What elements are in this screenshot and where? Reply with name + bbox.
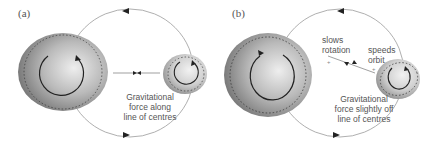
caption-line: line of centres [107, 112, 193, 122]
panel-label-a: (a) [18, 7, 30, 19]
primary-body [18, 33, 108, 111]
force-arrow-icon [352, 60, 357, 64]
tidal-interaction-figure: + + (a) (b) Gravitational force along li… [0, 0, 441, 145]
caption-line: force along [107, 102, 193, 112]
secondary-body [376, 59, 420, 99]
annotation-slows-rotation: slows rotation [322, 35, 350, 55]
annotation-line: speeds [368, 45, 395, 55]
panel-label-b: (b) [232, 7, 245, 19]
caption-line: line of centres [319, 114, 409, 124]
caption-line: force slightly off [319, 104, 409, 114]
annotation-line: rotation [322, 45, 350, 55]
plus-marker: + [372, 66, 376, 72]
annotation-speeds-orbit: speeds orbit [368, 45, 395, 65]
force-arrow-right-icon [133, 71, 137, 75]
caption-b: Gravitational force slightly off line of… [319, 94, 409, 124]
caption-line: Gravitational [107, 92, 193, 102]
force-arrow-icon [344, 62, 349, 66]
force-arrow-left-icon [137, 71, 141, 75]
primary-body [224, 33, 312, 117]
annotation-line: slows [322, 35, 350, 45]
caption-a: Gravitational force along line of centre… [107, 92, 193, 122]
secondary-body [163, 54, 207, 94]
annotation-line: orbit [368, 55, 395, 65]
plus-marker: + [327, 59, 331, 65]
caption-line: Gravitational [319, 94, 409, 104]
